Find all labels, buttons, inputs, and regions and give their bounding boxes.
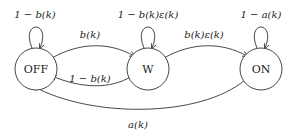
node-w: W — [127, 48, 169, 90]
label-on-off: a(k) — [128, 119, 148, 130]
label-off-self: 1 − b(k) — [14, 9, 55, 20]
edge-w-self — [141, 27, 154, 48]
node-off: OFF — [15, 48, 57, 90]
label-on-self: 1 − a(k) — [241, 9, 282, 20]
label-w-off: 1 − b(k) — [69, 73, 110, 84]
label-off-w: b(k) — [80, 29, 100, 40]
label-w-on: b(k)ε(k) — [184, 29, 224, 40]
state-diagram: OFF W ON 1 − b(k) b(k) 1 − b(k)ε(k) 1 − … — [0, 0, 293, 136]
edge-on-self — [254, 27, 267, 48]
label-w-self: 1 − b(k)ε(k) — [118, 9, 179, 20]
svg-text:W: W — [142, 63, 154, 76]
node-on: ON — [240, 48, 282, 90]
edge-off-w — [52, 46, 134, 58]
svg-text:OFF: OFF — [24, 63, 49, 76]
svg-text:ON: ON — [252, 63, 271, 76]
edge-off-self — [29, 27, 42, 48]
edge-w-on — [164, 46, 247, 58]
